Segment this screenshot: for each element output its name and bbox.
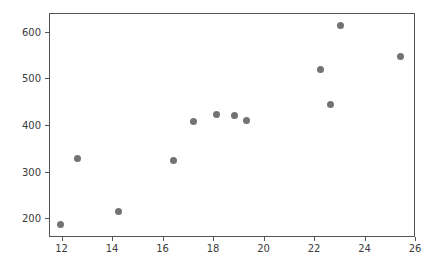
data-point	[170, 157, 177, 164]
x-axis-tick	[213, 237, 214, 241]
x-axis-tick-label: 12	[55, 243, 68, 254]
data-point	[317, 66, 324, 73]
x-axis-tick-label: 16	[156, 243, 169, 254]
data-point	[213, 111, 220, 118]
y-axis-tick	[45, 32, 49, 33]
x-axis-tick-label: 22	[308, 243, 321, 254]
data-point	[327, 101, 334, 108]
x-axis-tick	[415, 237, 416, 241]
x-axis-tick	[264, 237, 265, 241]
data-point	[115, 208, 122, 215]
data-point	[231, 112, 238, 119]
x-axis-tick-label: 18	[207, 243, 220, 254]
data-point	[337, 22, 344, 29]
x-axis-tick-label: 14	[106, 243, 119, 254]
y-axis-tick	[45, 218, 49, 219]
data-point	[74, 155, 81, 162]
y-axis-tick	[45, 78, 49, 79]
x-axis-tick-label: 26	[409, 243, 422, 254]
y-axis-tick-label: 300	[22, 166, 41, 177]
x-axis-tick-label: 20	[257, 243, 270, 254]
y-axis-tick-label: 200	[22, 213, 41, 224]
y-axis-tick	[45, 172, 49, 173]
x-axis-tick-label: 24	[358, 243, 371, 254]
y-axis-tick-label: 400	[22, 120, 41, 131]
y-axis-tick	[45, 125, 49, 126]
x-axis-tick	[163, 237, 164, 241]
x-axis-tick	[314, 237, 315, 241]
data-point	[397, 53, 404, 60]
x-axis-tick	[112, 237, 113, 241]
scatter-chart: 1214161820222426200300400500600	[0, 0, 437, 276]
y-axis-tick-label: 500	[22, 73, 41, 84]
plot-area	[49, 13, 415, 237]
data-points-layer	[50, 14, 414, 236]
data-point	[57, 221, 64, 228]
x-axis-tick	[62, 237, 63, 241]
x-axis-tick	[365, 237, 366, 241]
y-axis-tick-label: 600	[22, 26, 41, 37]
data-point	[190, 118, 197, 125]
data-point	[243, 117, 250, 124]
